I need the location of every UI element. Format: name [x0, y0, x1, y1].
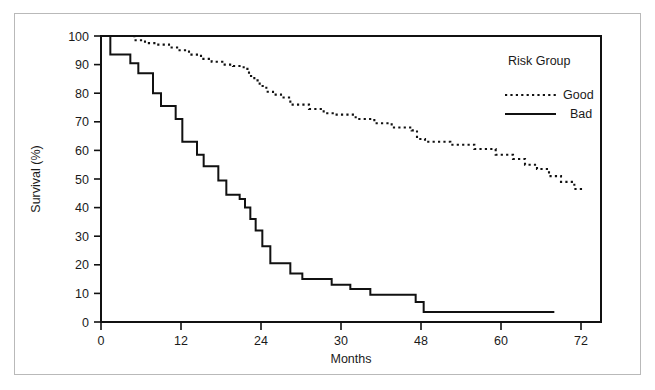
y-tick-label: 50	[75, 173, 89, 187]
y-tick-label: 90	[75, 58, 89, 72]
plot-frame	[101, 36, 601, 322]
y-tick-label: 40	[75, 201, 89, 215]
y-tick-label: 100	[68, 30, 89, 44]
x-tick-label: 0	[98, 334, 105, 348]
series-line-bad	[101, 36, 554, 312]
x-tick-label: 30	[334, 334, 348, 348]
y-tick-label: 0	[82, 316, 89, 330]
x-tick-label: 60	[494, 334, 508, 348]
legend: Risk Group Good Bad	[505, 54, 594, 121]
y-tick-label: 80	[75, 87, 89, 101]
y-tick-label: 60	[75, 144, 89, 158]
y-axis-title: Survival (%)	[29, 145, 43, 212]
figure-container: 0102030405060708090100 0122430486072 Mon…	[0, 0, 655, 390]
x-tick-label: 24	[254, 334, 268, 348]
legend-label-good: Good	[563, 88, 594, 102]
y-axis-tick-labels: 0102030405060708090100	[68, 30, 89, 330]
legend-label-bad: Bad	[570, 107, 592, 121]
y-tick-label: 10	[75, 287, 89, 301]
y-tick-label: 20	[75, 258, 89, 272]
x-axis-title: Months	[331, 352, 372, 366]
y-tick-label: 70	[75, 115, 89, 129]
y-tick-label: 30	[75, 230, 89, 244]
x-tick-label: 12	[174, 334, 188, 348]
legend-title: Risk Group	[508, 54, 571, 68]
y-axis-ticks	[94, 36, 101, 322]
survival-chart: 0102030405060708090100 0122430486072 Mon…	[0, 0, 655, 390]
x-tick-label: 72	[574, 334, 588, 348]
x-axis-ticks	[101, 322, 581, 330]
x-axis-tick-labels: 0122430486072	[98, 334, 588, 348]
x-tick-label: 48	[414, 334, 428, 348]
